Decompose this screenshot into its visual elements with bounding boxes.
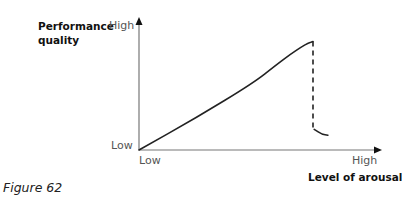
chart-plot: [0, 0, 402, 208]
series-post-drop-tail: [314, 129, 328, 135]
series-performance-rise: [139, 42, 313, 150]
y-axis-arrow-icon: [136, 17, 143, 25]
x-axis-arrow-icon: [374, 147, 382, 154]
